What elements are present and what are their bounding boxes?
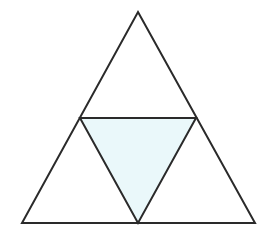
triangle-diagram — [0, 0, 264, 235]
